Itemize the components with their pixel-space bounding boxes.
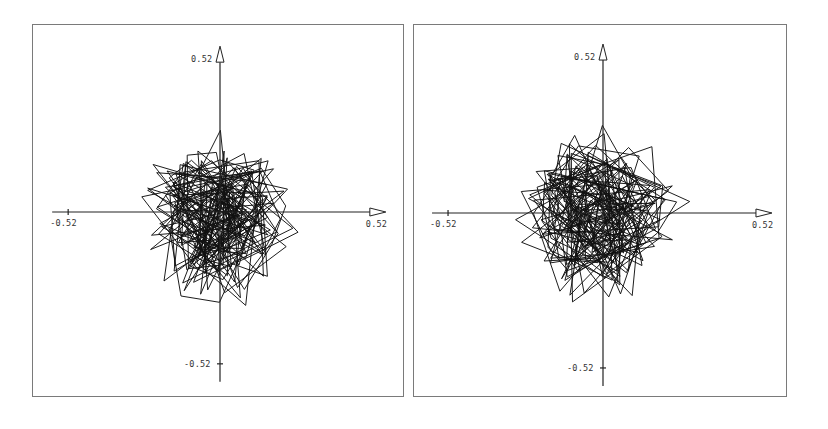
y-min-label: -0.52 [184, 359, 211, 369]
left-plot-canvas: -0.52 0.52 0.52 -0.52 [33, 25, 405, 398]
x-max-label: 0.52 [366, 219, 387, 229]
x-min-label: -0.52 [50, 218, 77, 228]
y-max-label: 0.52 [574, 52, 595, 62]
y-axis-arrow-icon [599, 44, 607, 60]
right-plot-canvas: -0.52 0.52 0.52 -0.52 [414, 25, 788, 398]
x-max-label: 0.52 [752, 220, 773, 230]
left-phase-plot: -0.52 0.52 0.52 -0.52 [32, 24, 404, 397]
y-min-label: -0.52 [567, 363, 594, 373]
right-phase-plot: -0.52 0.52 0.52 -0.52 [413, 24, 787, 397]
y-axis-arrow-icon [216, 46, 224, 62]
x-axis-arrow-icon [370, 208, 386, 216]
y-max-label: 0.52 [191, 54, 212, 64]
x-axis-arrow-icon [756, 209, 772, 217]
x-min-label: -0.52 [430, 219, 457, 229]
